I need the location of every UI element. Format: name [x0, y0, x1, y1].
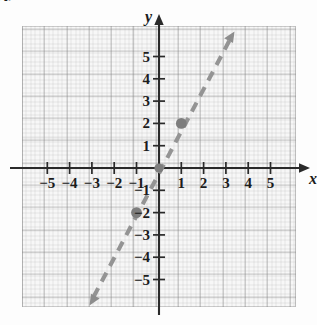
y-tick-label-neg4: −4: [128, 250, 150, 265]
y-axis-label: y: [145, 8, 152, 26]
x-tick-label-1: 1: [178, 176, 186, 191]
y-tick-label-4: 4: [134, 71, 150, 86]
x-tick-label-neg3: −3: [84, 176, 100, 191]
y-tick-label-neg2: −2: [128, 205, 150, 220]
y-tick-label-3: 3: [134, 94, 150, 109]
point-0-0: [154, 163, 163, 172]
x-tick-label-neg5: −5: [39, 176, 55, 191]
y-tick-label-neg1: −1: [128, 183, 150, 198]
axes-and-line-overlay: [0, 0, 317, 325]
x-tick-label-2: 2: [200, 176, 208, 191]
x-axis-label: x: [309, 170, 317, 188]
y-tick-label-1: 1: [134, 138, 150, 153]
point-1-2: [176, 118, 187, 129]
x-tick-label-neg4: −4: [62, 176, 78, 191]
y-tick-label-2: 2: [134, 116, 150, 131]
y-tick-label-neg5: −5: [128, 272, 150, 287]
x-tick-label-neg2: −2: [106, 176, 122, 191]
x-tick-label-4: 4: [244, 176, 252, 191]
y-tick-label-5: 5: [134, 49, 150, 64]
figure-root: 3.: [0, 0, 317, 325]
x-tick-label-5: 5: [267, 176, 275, 191]
y-tick-label-neg3: −3: [128, 227, 150, 242]
x-tick-label-3: 3: [222, 176, 230, 191]
